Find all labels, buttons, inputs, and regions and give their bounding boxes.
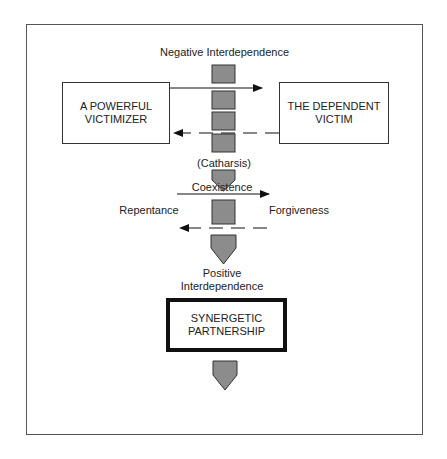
repentance-label: Repentance [118,204,180,216]
negative-interdependence-label: Negative Interdependence [160,46,284,58]
synergetic-line2: PARTNERSHIP [188,325,265,337]
coexistence-label: Coexistence [180,181,264,193]
dependent-victim-box: THE DEPENDENTVICTIM [279,82,389,144]
victimizer-line2: VICTIMIZER [85,113,147,125]
repentance-block [212,200,235,224]
negative-interdependence-blocks [212,65,235,152]
positive-interdependence-label: Positive Interdependence [170,267,274,293]
positive-chevron-icon [211,235,236,264]
positive-line2: Interdependence [181,280,264,292]
synergetic-line1: SYNERGETIC [191,312,263,324]
forgiveness-label: Forgiveness [266,204,332,216]
powerful-victimizer-box: A POWERFULVICTIMIZER [62,82,170,144]
coexistence-chevron-icon [213,361,237,390]
victimizer-line1: A POWERFUL [80,100,152,112]
diagram-graphics [0,0,447,459]
victim-line2: VICTIM [315,113,352,125]
synergetic-partnership-box: SYNERGETICPARTNERSHIP [166,298,287,352]
catharsis-label: (Catharsis) [190,157,258,169]
positive-line1: Positive [203,267,242,279]
victim-line1: THE DEPENDENT [288,100,381,112]
